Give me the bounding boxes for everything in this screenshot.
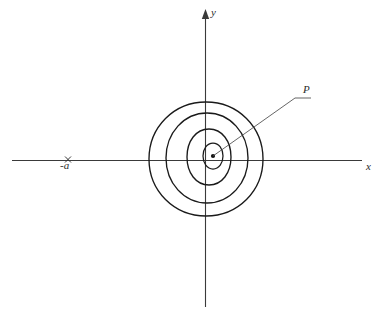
figure-canvas: y x P -a	[0, 0, 379, 322]
orbit-curve-second	[187, 129, 231, 185]
orbit-curve-third	[166, 113, 248, 203]
phase-portrait-svg	[0, 0, 379, 322]
minus-a-label: -a	[60, 160, 69, 171]
equilibrium-point-label: P	[303, 84, 310, 95]
y-axis-label: y	[211, 7, 216, 18]
x-axis-label: x	[366, 161, 371, 172]
y-axis-arrowhead-icon	[202, 9, 209, 19]
